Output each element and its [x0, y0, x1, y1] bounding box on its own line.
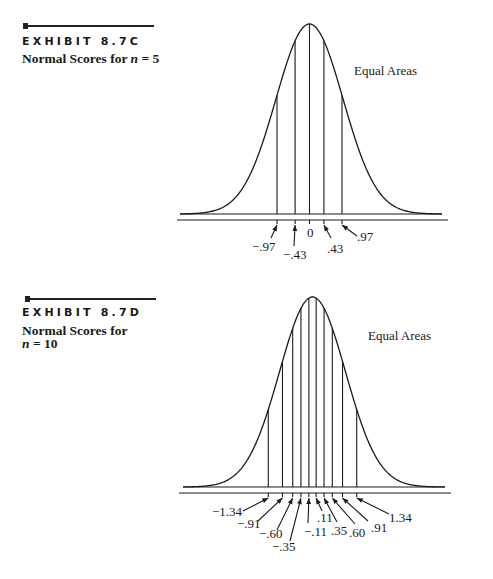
- arrowhead-icon: [324, 498, 329, 504]
- equal-areas-annotation: Equal Areas: [368, 328, 431, 343]
- arrowhead-icon: [342, 225, 348, 230]
- arrowhead-icon: [288, 498, 293, 504]
- exhibit-figure-page: EXHIBIT 8.7C Normal Scores for n = 5 EXH…: [0, 0, 493, 579]
- score-label: 0: [307, 225, 314, 240]
- score-label: .43: [327, 241, 343, 256]
- normal-density-curve: [183, 297, 445, 487]
- arrowhead-icon: [262, 498, 268, 503]
- score-label: .91: [371, 520, 387, 535]
- score-label: −.35: [272, 539, 296, 554]
- score-label: −.97: [252, 239, 276, 254]
- arrowhead-icon: [272, 225, 277, 231]
- arrowhead-icon: [357, 498, 363, 503]
- normal-curve-charts: −.97−.430.43.97Equal Areas−1.34−.91−.60−…: [0, 0, 493, 579]
- normal-density-curve: [180, 24, 442, 214]
- score-label: −.11: [304, 524, 327, 539]
- arrowhead-icon: [324, 225, 329, 231]
- arrowhead-icon: [306, 498, 311, 504]
- arrow-shaft: [290, 498, 301, 541]
- score-label: 1.34: [389, 510, 412, 525]
- arrowhead-icon: [316, 498, 321, 504]
- equal-areas-annotation: Equal Areas: [354, 63, 417, 78]
- score-label: .60: [349, 525, 365, 540]
- arrowhead-icon: [292, 225, 297, 231]
- score-label: −.43: [283, 247, 307, 262]
- score-label: −.91: [237, 516, 261, 531]
- score-label: .35: [331, 523, 347, 538]
- score-label: .97: [357, 229, 374, 244]
